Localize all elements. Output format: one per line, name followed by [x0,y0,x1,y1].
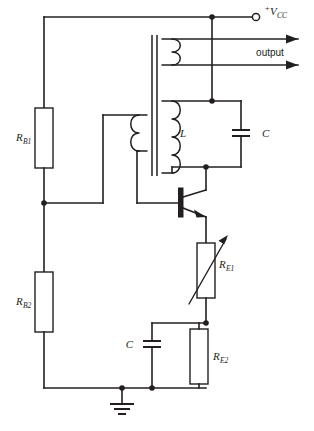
transformer-core [152,35,157,176]
resistor-rb1 [35,108,53,168]
output-label: output [256,47,284,58]
rb1-name: R [15,131,23,143]
resistor-re2-label: R E2 [212,350,229,365]
output-arrow-top [286,35,298,44]
circuit-canvas: + V CC output L [0,0,314,431]
feedback-winding [131,115,147,151]
vcc-label: + V CC [265,4,288,20]
circuit-diagram: + V CC output L [0,0,314,431]
inductor-l-label: L [179,127,186,139]
output-arrow-bottom [286,61,298,70]
tank-inductor [162,101,180,173]
rb1-subscript: B1 [23,137,31,146]
resistor-re1-label: R E1 [218,258,234,273]
node-bypass-ground [149,385,155,391]
ground-symbol [110,388,134,414]
re1-subscript: E1 [225,264,234,273]
re2-subscript: E2 [219,356,229,365]
re2-name: R [212,350,220,362]
tank-capacitor [232,130,250,136]
resistor-rb2-label: R B2 [15,295,32,310]
vcc-subscript: CC [277,11,288,20]
re1-name: R [218,258,226,270]
resistor-re2 [190,329,208,384]
vcc-terminal [252,13,259,20]
rb2-subscript: B2 [23,301,32,310]
feedback-winding-leads [44,115,180,203]
resistor-re1 [197,243,215,298]
capacitor-c-tank-label: C [262,127,270,139]
capacitor-c-bypass-label: C [126,338,134,350]
resistor-rb1-label: R B1 [15,131,31,146]
resistor-rb2 [35,272,53,332]
supply-rail-wire [44,17,253,108]
npn-transistor [179,188,207,243]
rb2-name: R [15,295,23,307]
